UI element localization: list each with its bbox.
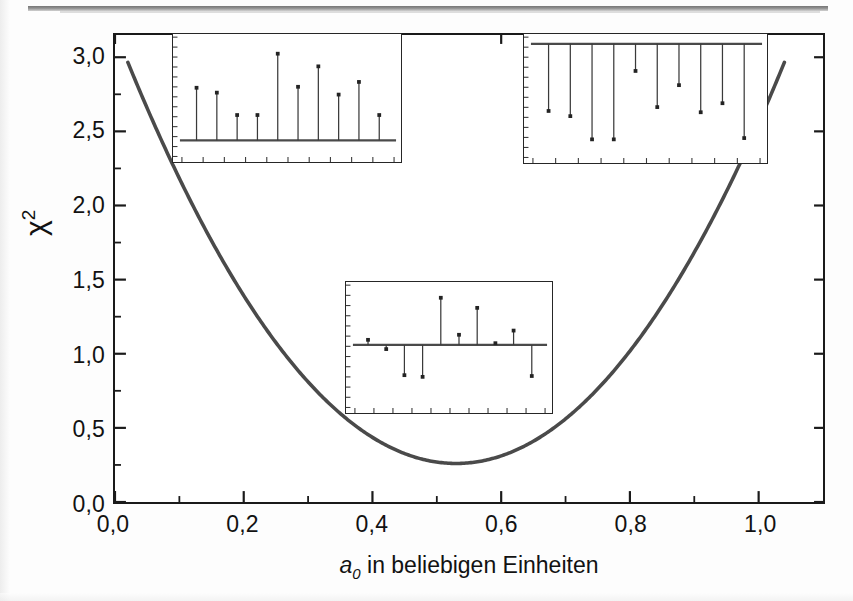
y-tick-label: 1,5 bbox=[72, 266, 105, 293]
inset-bottom-center-svg bbox=[346, 282, 552, 413]
x-tick-label: 0,2 bbox=[226, 511, 259, 538]
y-axis-title: χ2 bbox=[18, 210, 53, 236]
y-tick-label: 0,5 bbox=[72, 416, 105, 443]
x-axis-title-var: a bbox=[340, 552, 353, 578]
x-axis-title: a0 in beliebigen Einheiten bbox=[113, 552, 825, 582]
scan-band-top-secondary bbox=[60, 11, 820, 13]
y-axis-title-superscript: 2 bbox=[18, 210, 39, 221]
x-axis-tick-labels: 0,0 0,2 0,4 0,6 0,8 1,0 bbox=[113, 511, 825, 545]
x-axis-title-subscript: 0 bbox=[352, 565, 360, 582]
inset-top-left-residual-plot bbox=[172, 33, 402, 163]
y-tick-label: 1,0 bbox=[72, 341, 105, 368]
y-tick-label: 2,0 bbox=[72, 192, 105, 219]
inset-top-left-svg bbox=[173, 34, 401, 162]
y-axis-tick-labels: 0,0 0,5 1,0 1,5 2,0 2,5 3,0 bbox=[0, 33, 105, 504]
y-tick-label: 2,5 bbox=[72, 117, 105, 144]
figure-page: 0,0 0,5 1,0 1,5 2,0 2,5 3,0 0,0 0,2 0,4 … bbox=[0, 0, 853, 601]
inset-top-right-svg bbox=[524, 34, 767, 163]
x-tick-label: 0,6 bbox=[485, 511, 518, 538]
x-tick-label: 0,4 bbox=[356, 511, 389, 538]
y-tick-label: 3,0 bbox=[72, 42, 105, 69]
scan-edge-bottom bbox=[0, 593, 853, 601]
x-tick-label: 1,0 bbox=[744, 511, 777, 538]
x-tick-label: 0,8 bbox=[615, 511, 648, 538]
inset-bottom-center-residual-plot bbox=[345, 281, 553, 414]
inset-top-right-residual-plot bbox=[523, 33, 768, 164]
x-tick-label: 0,0 bbox=[97, 511, 130, 538]
y-axis-title-base: χ bbox=[19, 220, 52, 236]
x-axis-title-rest: in beliebigen Einheiten bbox=[361, 552, 599, 578]
